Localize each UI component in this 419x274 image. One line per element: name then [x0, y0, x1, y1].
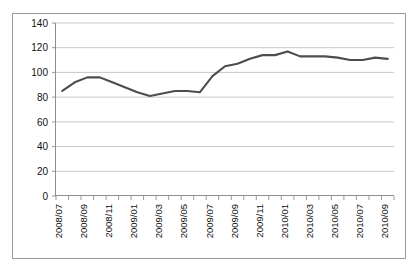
series-line-index [62, 51, 387, 95]
line-chart: 020406080100120140 2008/072008/092008/11… [0, 0, 419, 274]
x-axis-tick-label: 2010/09 [379, 204, 390, 238]
x-axis-ticks-group [56, 196, 394, 200]
y-axis-tick-label: 60 [37, 117, 49, 128]
gridlines-group [56, 23, 394, 171]
y-axis-tick-label: 120 [31, 42, 48, 53]
x-axis-tick-label: 2010/03 [304, 204, 315, 238]
x-axis-tick-label: 2010/07 [354, 204, 365, 238]
x-axis-tick-label: 2009/07 [204, 204, 215, 238]
y-axis-tick-label: 80 [37, 92, 49, 103]
y-axis-labels-group: 020406080100120140 [31, 18, 48, 202]
x-axis-tick-label: 2009/09 [229, 204, 240, 238]
x-axis-tick-label: 2008/11 [103, 204, 114, 238]
y-axis-tick-label: 140 [31, 18, 48, 29]
x-axis-tick-label: 2010/05 [329, 204, 340, 238]
x-axis-tick-label: 2009/01 [128, 204, 139, 238]
y-axis-tick-label: 40 [37, 141, 49, 152]
x-axis-tick-label: 2010/01 [279, 204, 290, 238]
x-axis-labels-group: 2008/072008/092008/112009/012009/032009/… [53, 204, 389, 238]
chart-container: 020406080100120140 2008/072008/092008/11… [0, 0, 419, 274]
y-axis-tick-label: 0 [42, 191, 48, 202]
x-axis-tick-label: 2009/11 [254, 204, 265, 238]
y-axis-tick-label: 100 [31, 67, 48, 78]
x-axis-tick-label: 2008/09 [78, 204, 89, 238]
y-axis-tick-label: 20 [37, 166, 49, 177]
x-axis-tick-label: 2009/05 [178, 204, 189, 238]
x-axis-tick-label: 2008/07 [53, 204, 64, 238]
x-axis-tick-label: 2009/03 [153, 204, 164, 238]
